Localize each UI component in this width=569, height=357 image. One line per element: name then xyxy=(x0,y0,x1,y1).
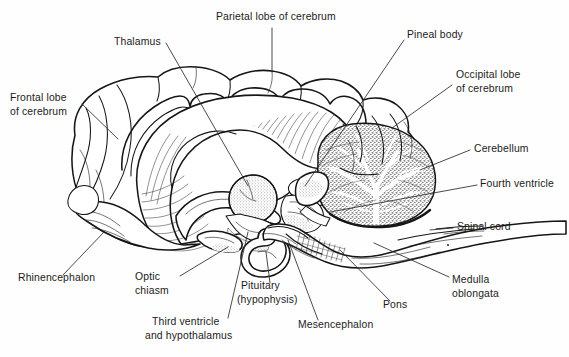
anatomical-illustration: Parietal lobe of cerebrum Thalamus Pinea… xyxy=(0,0,569,357)
label-mesencephalon: Mesencephalon xyxy=(298,319,373,330)
label-third-ventricle: Third ventricle and hypothalamus xyxy=(145,316,232,341)
leader-rhinencephalon xyxy=(63,232,104,275)
label-pituitary: Pituitary (hypophysis) xyxy=(237,280,298,305)
label-thalamus: Thalamus xyxy=(114,36,161,47)
brain-diagram-figure: Parietal lobe of cerebrum Thalamus Pinea… xyxy=(0,0,569,357)
label-parietal-lobe: Parietal lobe of cerebrum xyxy=(216,11,336,22)
label-frontal-lobe: Frontal lobe of cerebrum xyxy=(10,92,70,117)
label-pineal-body: Pineal body xyxy=(407,29,464,40)
leader-optic-chiasm xyxy=(180,247,228,276)
label-pons: Pons xyxy=(383,299,407,310)
label-occipital-lobe: Occipital lobe of cerebrum xyxy=(456,69,524,94)
label-fourth-ventricle: Fourth ventricle xyxy=(480,178,554,189)
leader-occipital-lobe xyxy=(392,85,452,128)
label-optic-chiasm: Optic chiasm xyxy=(135,271,169,296)
label-spinal-cord: Spinal cord xyxy=(457,221,511,232)
label-medulla-oblongata: Medulla oblongata xyxy=(452,274,499,299)
label-cerebellum: Cerebellum xyxy=(474,143,529,154)
leader-pituitary xyxy=(266,252,270,283)
label-rhinencephalon: Rhinencephalon xyxy=(18,272,95,283)
